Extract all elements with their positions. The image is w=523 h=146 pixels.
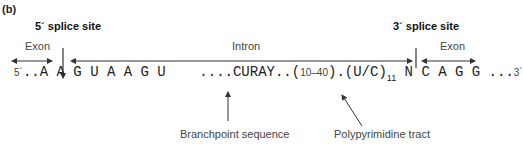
- branchpoint-bases: ....CURAY..: [199, 64, 291, 80]
- polypyrimidine-count: 11: [387, 73, 396, 83]
- three-prime-end: 3´: [514, 67, 523, 78]
- intron-donor-bases: G U A A G U: [73, 64, 165, 80]
- polypyrimidine-arrow: [342, 95, 362, 126]
- branchpoint-label: Branchpoint sequence: [180, 128, 289, 140]
- five-prime-end: 5´: [14, 67, 23, 78]
- spacer-length: 10–40: [300, 67, 328, 78]
- polypyrimidine-label: Polypyrimidine tract: [334, 128, 430, 140]
- exon-left-bases: ..A A: [23, 64, 65, 80]
- polypyrimidine-bases: (U/C): [345, 64, 387, 80]
- spacer-close: ).: [328, 64, 345, 80]
- acceptor-bases: N C A G: [405, 64, 464, 80]
- exon-right-bases: G ...: [472, 64, 514, 80]
- spacer-open: (: [292, 64, 300, 80]
- sequence-line: 5´..A A G U A A G U ....CURAY..(10–40).(…: [14, 64, 523, 80]
